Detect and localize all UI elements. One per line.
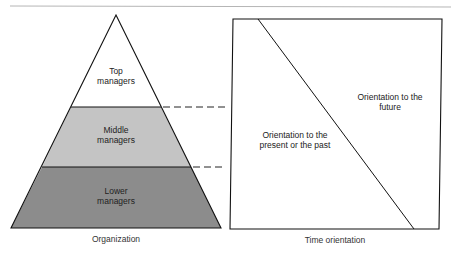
middle-managers-label: Middle managers [76, 125, 156, 145]
future-orientation-label: Orientation to the future [340, 92, 440, 112]
pyramid-top-band [71, 15, 161, 107]
time-orientation-caption: Time orientation [285, 235, 385, 245]
top-rule [10, 6, 451, 7]
past-orientation-label: Orientation to the present or the past [240, 130, 350, 150]
diagram-canvas [0, 0, 451, 255]
top-managers-label: Top managers [76, 66, 156, 86]
lower-managers-label: Lower managers [76, 186, 156, 206]
organization-caption: Organization [66, 234, 166, 244]
